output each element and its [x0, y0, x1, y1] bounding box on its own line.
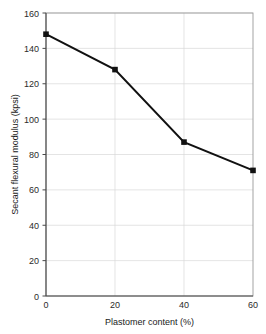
data-point-marker [43, 31, 49, 37]
y-tick-label: 20 [29, 256, 39, 266]
x-axis-title: Plastomer content (%) [105, 317, 194, 327]
y-axis-tick-labels: 160 140 120 100 80 60 40 20 0 [24, 9, 39, 302]
y-axis-title: Secant flexural modulus (kpsi) [10, 94, 20, 215]
data-point-marker [181, 139, 187, 145]
y-tick-label: 40 [29, 221, 39, 231]
y-tick-label: 60 [29, 185, 39, 195]
data-point-marker [112, 67, 118, 73]
y-tick-label: 80 [29, 150, 39, 160]
x-tick-label: 0 [43, 300, 48, 310]
x-tick-label: 20 [110, 300, 120, 310]
data-point-marker [250, 168, 256, 174]
y-tick-label: 120 [24, 79, 39, 89]
x-tick-label: 40 [179, 300, 189, 310]
x-tick-label: 60 [248, 300, 258, 310]
chart-figure: · · · · · ·· · [0, 0, 266, 334]
y-tick-label: 140 [24, 44, 39, 54]
x-axis-tick-labels: 0 20 40 60 [43, 300, 258, 310]
clipped-top-caption: · · · · · ·· · [24, 0, 224, 2]
line-chart: 160 140 120 100 80 60 40 20 0 0 20 40 60… [0, 0, 266, 334]
y-tick-label: 160 [24, 9, 39, 19]
y-tick-label: 0 [34, 292, 39, 302]
y-tick-label: 100 [24, 115, 39, 125]
